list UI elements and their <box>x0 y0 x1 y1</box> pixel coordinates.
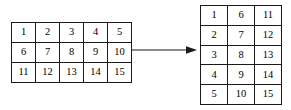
matrix-cell: 6 <box>12 43 36 63</box>
matrix-cell: 15 <box>108 63 132 83</box>
matrix-cell: 7 <box>228 25 255 45</box>
matrix-cell: 14 <box>84 63 108 83</box>
matrix-cell: 1 <box>201 6 228 26</box>
matrix-cell: 8 <box>60 43 84 63</box>
matrix-cell: 9 <box>228 65 255 85</box>
matrix-cell: 4 <box>84 23 108 43</box>
table-row: 11 12 13 14 15 <box>12 63 132 83</box>
matrix-cell: 3 <box>60 23 84 43</box>
matrix-cell: 4 <box>201 65 228 85</box>
source-matrix: 1 2 3 4 5 6 7 8 9 10 11 12 13 14 15 <box>11 22 132 83</box>
matrix-cell: 3 <box>201 45 228 65</box>
matrix-cell: 9 <box>84 43 108 63</box>
matrix-cell: 10 <box>228 85 255 105</box>
result-matrix: 1 6 11 2 7 12 3 8 13 4 9 14 5 10 <box>200 5 282 105</box>
matrix-cell: 11 <box>12 63 36 83</box>
matrix-cell: 1 <box>12 23 36 43</box>
matrix-cell: 2 <box>36 23 60 43</box>
table-row: 2 7 12 <box>201 25 282 45</box>
matrix-cell: 5 <box>108 23 132 43</box>
table-row: 3 8 13 <box>201 45 282 65</box>
matrix-transpose-figure: 1 2 3 4 5 6 7 8 9 10 11 12 13 14 15 <box>0 0 291 110</box>
matrix-cell: 12 <box>36 63 60 83</box>
matrix-cell: 15 <box>255 85 282 105</box>
matrix-cell: 2 <box>201 25 228 45</box>
matrix-cell: 12 <box>255 25 282 45</box>
table-row: 6 7 8 9 10 <box>12 43 132 63</box>
table-row: 4 9 14 <box>201 65 282 85</box>
arrow-right-icon <box>131 43 198 57</box>
table-row: 5 10 15 <box>201 85 282 105</box>
matrix-cell: 7 <box>36 43 60 63</box>
matrix-cell: 13 <box>60 63 84 83</box>
matrix-cell: 8 <box>228 45 255 65</box>
matrix-cell: 6 <box>228 6 255 26</box>
table-row: 1 2 3 4 5 <box>12 23 132 43</box>
matrix-cell: 5 <box>201 85 228 105</box>
table-row: 1 6 11 <box>201 6 282 26</box>
matrix-cell: 14 <box>255 65 282 85</box>
matrix-cell: 11 <box>255 6 282 26</box>
matrix-cell: 13 <box>255 45 282 65</box>
matrix-cell: 10 <box>108 43 132 63</box>
